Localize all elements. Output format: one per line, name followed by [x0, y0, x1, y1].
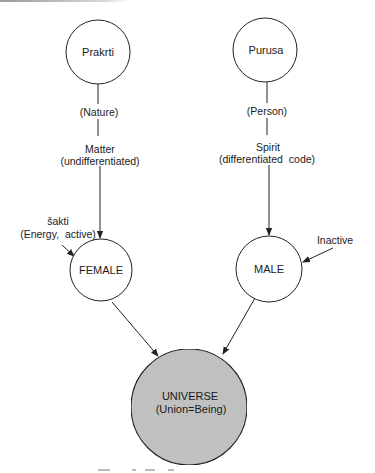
caption-fragment — [132, 469, 136, 471]
label-matter-sub: (undifferentiated) — [60, 155, 139, 167]
label-inactive: Inactive — [317, 234, 353, 246]
node-purusa: Purusa — [233, 18, 297, 82]
label-person: (Person) — [247, 105, 287, 117]
label-sakti: šakti — [47, 215, 69, 227]
diagram-canvas: Prakrti Purusa FEMALE MALE UNIVERSE (Uni… — [0, 0, 375, 473]
edge-male-to-universe — [223, 298, 255, 354]
node-universe: UNIVERSE (Union=Being) — [131, 349, 247, 465]
node-female: FEMALE — [70, 239, 132, 301]
node-prakrti: Prakrti — [66, 20, 130, 84]
label-nature: (Nature) — [80, 106, 119, 118]
edge-female-to-universe — [112, 302, 158, 356]
node-label: Purusa — [249, 44, 285, 56]
label-matter: Matter — [85, 143, 115, 155]
node-label: Prakrti — [82, 46, 114, 58]
node-male: MALE — [236, 236, 302, 302]
node-label-line2: (Union=Being) — [156, 403, 227, 415]
caption-fragment — [145, 469, 155, 471]
edge-sakti-to-female — [62, 245, 74, 256]
node-label-line1: UNIVERSE — [162, 390, 218, 402]
caption-fragment — [168, 469, 174, 471]
edge-inactive-to-male — [303, 248, 333, 262]
label-energy-active: (Energy, active) — [20, 228, 96, 240]
node-label: MALE — [254, 263, 284, 275]
label-spirit: Spirit — [256, 141, 280, 153]
node-label: FEMALE — [79, 264, 123, 276]
label-spirit-sub: (differentiated code) — [219, 153, 315, 165]
caption-fragment — [98, 469, 110, 471]
